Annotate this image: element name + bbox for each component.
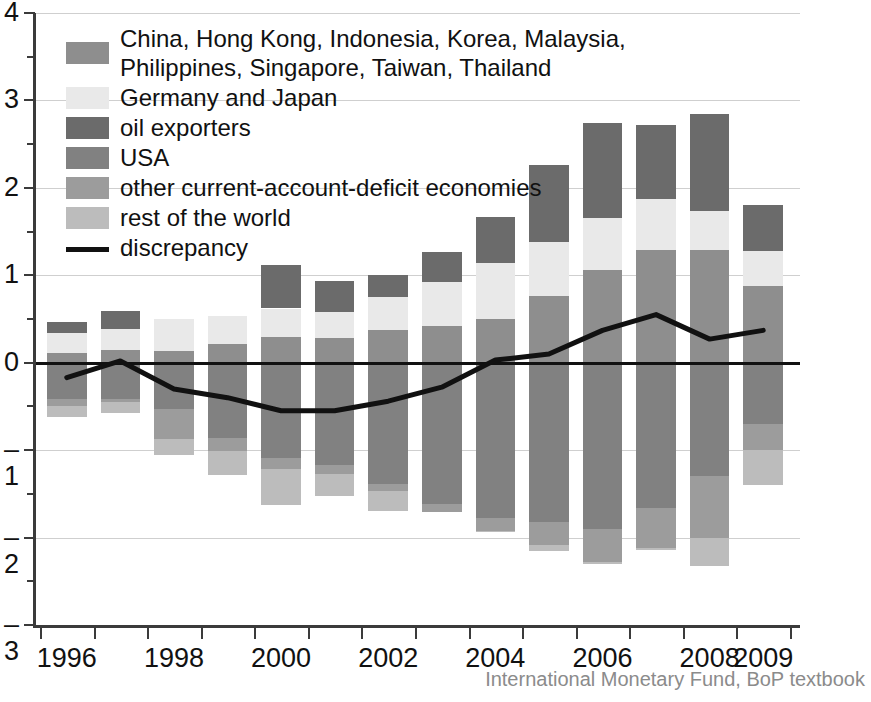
y-tick-label: –1	[0, 436, 19, 490]
x-tick	[522, 628, 524, 639]
y-minor-tick	[27, 493, 35, 495]
x-tick	[254, 628, 256, 639]
x-tick	[790, 628, 792, 639]
y-axis	[33, 13, 36, 627]
legend-item[interactable]: discrepancy	[66, 233, 626, 262]
legend-item-label: other current-account-deficit economies	[120, 173, 542, 202]
x-tick	[40, 628, 42, 639]
y-tick-label: 1	[0, 261, 19, 288]
legend-item-label: discrepancy	[120, 233, 248, 262]
y-tick-label: –2	[0, 524, 19, 578]
legend-item-label: oil exporters	[120, 113, 251, 142]
legend-swatch-icon	[66, 87, 109, 109]
y-tick	[24, 12, 35, 14]
y-tick	[24, 187, 35, 189]
x-tick-label: 1996	[22, 645, 112, 672]
source-credit: International Monetary Fund, BoP textboo…	[485, 668, 865, 691]
y-tick	[24, 624, 35, 626]
x-tick-label: 2000	[236, 645, 326, 672]
y-tick-label: 2	[0, 174, 19, 201]
y-tick	[24, 99, 35, 101]
x-tick	[469, 628, 471, 639]
x-tick	[147, 628, 149, 639]
legend-swatch-icon	[66, 117, 109, 139]
legend-item[interactable]: Germany and Japan	[66, 83, 626, 112]
legend-swatch-icon	[66, 207, 109, 229]
y-minor-tick	[27, 580, 35, 582]
legend-item-label: China, Hong Kong, Indonesia, Korea, Mala…	[120, 24, 626, 82]
y-minor-tick	[27, 56, 35, 58]
x-tick	[308, 628, 310, 639]
legend-item[interactable]: USA	[66, 143, 626, 172]
chart-figure: –3–2–10123419961998200020022004200620082…	[0, 0, 871, 702]
y-minor-tick	[27, 143, 35, 145]
y-minor-tick	[27, 231, 35, 233]
x-tick	[736, 628, 738, 639]
discrepancy-line	[67, 315, 763, 411]
legend-line-icon	[66, 247, 109, 252]
x-tick	[201, 628, 203, 639]
y-tick-label: 4	[0, 0, 19, 26]
x-tick-label: 2002	[343, 645, 433, 672]
legend-swatch-icon	[66, 177, 109, 199]
legend-swatch-icon	[66, 42, 109, 64]
legend-item-label: rest of the world	[120, 203, 291, 232]
legend-item[interactable]: rest of the world	[66, 203, 626, 232]
y-tick-label: 0	[0, 349, 19, 376]
legend-item-label: USA	[120, 143, 169, 172]
y-minor-tick	[27, 405, 35, 407]
x-tick	[629, 628, 631, 639]
y-tick-label: –3	[0, 611, 19, 665]
x-tick	[415, 628, 417, 639]
x-tick	[94, 628, 96, 639]
legend-item-label: Germany and Japan	[120, 83, 337, 112]
y-tick	[24, 274, 35, 276]
x-tick-label: 1998	[129, 645, 219, 672]
y-tick	[24, 362, 35, 364]
x-tick	[683, 628, 685, 639]
y-minor-tick	[27, 318, 35, 320]
y-tick	[24, 537, 35, 539]
legend-item[interactable]: China, Hong Kong, Indonesia, Korea, Mala…	[66, 24, 626, 82]
x-tick	[361, 628, 363, 639]
legend-item[interactable]: oil exporters	[66, 113, 626, 142]
legend-item[interactable]: other current-account-deficit economies	[66, 173, 626, 202]
x-tick	[576, 628, 578, 639]
legend-swatch-icon	[66, 147, 109, 169]
y-tick-label: 3	[0, 86, 19, 113]
y-tick	[24, 449, 35, 451]
chart-legend: China, Hong Kong, Indonesia, Korea, Mala…	[66, 24, 626, 263]
